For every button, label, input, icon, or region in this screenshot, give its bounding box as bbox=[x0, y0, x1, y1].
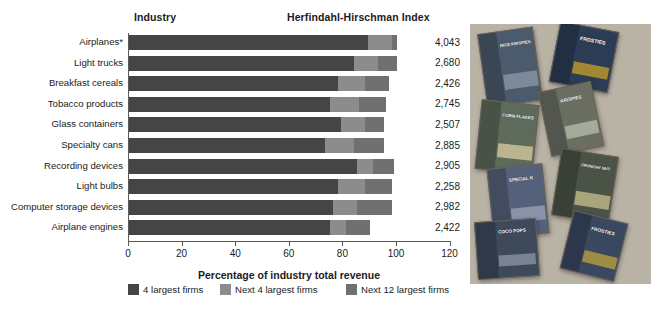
stacked-bar bbox=[129, 220, 370, 235]
stacked-bar bbox=[129, 35, 397, 50]
bar-segment-3 bbox=[365, 117, 384, 132]
bar-segment-3 bbox=[365, 179, 392, 194]
bar-category-label: Light trucks bbox=[0, 57, 123, 68]
cereal-box-brand-label: FROSTIES bbox=[591, 226, 624, 239]
bar-row: Computer storage devices2,982 bbox=[0, 198, 470, 219]
hhi-value: 2,680 bbox=[404, 57, 460, 68]
bar-segment-2 bbox=[330, 97, 359, 112]
cereal-box-brand-label: COCO POPS bbox=[498, 228, 534, 235]
bar-segment-3 bbox=[392, 35, 397, 50]
bar-segment-3 bbox=[354, 138, 383, 153]
bar-row: Glass containers2,507 bbox=[0, 115, 470, 136]
bar-segment-2 bbox=[330, 220, 346, 235]
x-tick-label: 0 bbox=[125, 248, 131, 259]
bar-category-label: Specialty cans bbox=[0, 139, 123, 150]
cereal-box-band bbox=[574, 191, 610, 210]
bar-segment-1 bbox=[129, 56, 354, 71]
cereal-box: KRISPIES bbox=[538, 81, 605, 157]
bar-category-label: Glass containers bbox=[0, 118, 123, 129]
cereal-box-brand-label: RICE KRISPIES bbox=[500, 39, 533, 48]
bar-row: Airplanes*4,043 bbox=[0, 33, 470, 54]
bar-row: Airplane engines2,422 bbox=[0, 218, 470, 239]
column-header-industry: Industry bbox=[134, 11, 176, 23]
bar-segment-1 bbox=[129, 220, 330, 235]
x-tick-label: 120 bbox=[441, 248, 458, 259]
legend-label: 4 largest firms bbox=[143, 284, 203, 295]
legend-swatch bbox=[346, 284, 357, 295]
bar-category-label: Breakfast cereals bbox=[0, 77, 123, 88]
cereal-box: COCO POPS bbox=[474, 218, 540, 280]
bar-segment-3 bbox=[357, 200, 392, 215]
x-tick-20 bbox=[182, 241, 183, 246]
bar-segment-1 bbox=[129, 179, 338, 194]
bar-row: Light bulbs2,258 bbox=[0, 177, 470, 198]
cereal-box-brand-label: CRUNCHY NUT bbox=[581, 163, 615, 172]
bar-segment-2 bbox=[368, 35, 392, 50]
cereal-boxes-photo: RICE KRISPIESFROSTIESCORN FLAKESKRISPIES… bbox=[470, 24, 651, 284]
bar-category-label: Computer storage devices bbox=[0, 201, 123, 212]
bar-segment-1 bbox=[129, 97, 330, 112]
bar-segment-2 bbox=[325, 138, 354, 153]
bar-category-label: Airplane engines bbox=[0, 221, 123, 232]
x-tick-100 bbox=[396, 241, 397, 246]
bar-segment-2 bbox=[354, 56, 378, 71]
bar-segment-1 bbox=[129, 35, 368, 50]
bar-segment-1 bbox=[129, 159, 357, 174]
bar-category-label: Tobacco products bbox=[0, 98, 123, 109]
cereal-box-side bbox=[552, 149, 581, 217]
bar-category-label: Airplanes* bbox=[0, 36, 123, 47]
legend-swatch bbox=[220, 284, 231, 295]
cereal-box-brand-label: CORN FLAKES bbox=[502, 114, 536, 122]
bar-row: Recording devices2,905 bbox=[0, 157, 470, 178]
hhi-value: 2,422 bbox=[404, 222, 460, 233]
bar-segment-3 bbox=[359, 97, 386, 112]
x-tick-label: 60 bbox=[283, 248, 294, 259]
x-tick-40 bbox=[235, 241, 236, 246]
legend-label: Next 12 largest firms bbox=[361, 284, 449, 295]
bar-segment-3 bbox=[346, 220, 370, 235]
cereal-box-band bbox=[497, 143, 533, 161]
stacked-bar bbox=[129, 76, 389, 91]
bar-segment-1 bbox=[129, 117, 341, 132]
hhi-value: 2,258 bbox=[404, 181, 460, 192]
hhi-value: 2,982 bbox=[404, 201, 460, 212]
hhi-value: 2,745 bbox=[404, 98, 460, 109]
bar-row: Tobacco products2,745 bbox=[0, 95, 470, 116]
bar-category-label: Recording devices bbox=[0, 160, 123, 171]
bar-segment-1 bbox=[129, 76, 338, 91]
column-header-hhi: Herfindahl-Hirschman Index bbox=[287, 11, 430, 23]
cereal-box: RICE KRISPIES bbox=[477, 26, 543, 107]
bar-row: Specialty cans2,885 bbox=[0, 136, 470, 157]
cereal-box-side bbox=[550, 24, 580, 85]
cereal-box-brand-label: KRISPIES bbox=[560, 93, 592, 104]
legend-swatch bbox=[128, 284, 139, 295]
cereal-box-side bbox=[475, 222, 499, 279]
x-tick-label: 20 bbox=[176, 248, 187, 259]
bar-segment-2 bbox=[338, 76, 365, 91]
x-tick-label: 40 bbox=[230, 248, 241, 259]
cereal-box-brand-label: FROSTIES bbox=[580, 36, 615, 48]
x-tick-120 bbox=[450, 241, 451, 246]
cereal-box-side bbox=[476, 100, 502, 170]
cereal-box-band bbox=[582, 250, 617, 270]
cereal-box: FROSTIES bbox=[560, 210, 629, 282]
hhi-value: 2,905 bbox=[404, 160, 460, 171]
chart-figure: Industry Herfindahl-Hirschman Index 0204… bbox=[0, 0, 651, 319]
bar-category-label: Light bulbs bbox=[0, 180, 123, 191]
hhi-value: 2,885 bbox=[404, 140, 460, 151]
bar-row: Breakfast cereals2,426 bbox=[0, 74, 470, 95]
x-axis-title: Percentage of industry total revenue bbox=[128, 269, 450, 281]
x-tick-label: 100 bbox=[388, 248, 405, 259]
stacked-bar bbox=[129, 159, 394, 174]
cereal-box-band bbox=[565, 120, 599, 140]
bar-segment-2 bbox=[338, 179, 365, 194]
cereal-box-band bbox=[572, 61, 610, 80]
bar-segment-2 bbox=[341, 117, 365, 132]
bar-segment-3 bbox=[365, 76, 389, 91]
bar-chart-plot-area: 020406080100120 Airplanes*4,043Light tru… bbox=[0, 33, 470, 248]
bar-segment-2 bbox=[357, 159, 373, 174]
x-tick-80 bbox=[342, 241, 343, 246]
bar-segment-3 bbox=[373, 159, 394, 174]
legend-item: Next 4 largest firms bbox=[220, 284, 318, 295]
stacked-bar bbox=[129, 200, 392, 215]
